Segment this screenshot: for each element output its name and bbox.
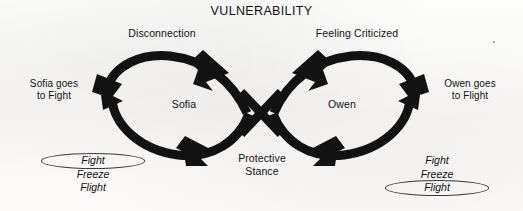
label-feeling-criticized: Feeling Criticized [292,27,422,40]
label-protective-stance: Protective Stance [212,152,312,178]
response-label: Fight [81,154,104,166]
responses-list-left: Fight Freeze Flight [56,154,130,195]
response-label: Fight [425,154,448,166]
page-title: VULNERABILITY [0,4,523,19]
response-label: Flight [80,181,106,193]
response-label: Freeze [421,168,454,180]
paper-speck [493,41,495,43]
label-owen: Owen [298,98,386,111]
label-disconnection: Disconnection [104,27,220,40]
label-sofia: Sofia [140,98,228,111]
label-sofia-goes-to-fight: Sofia goes to Fight [8,78,100,102]
label-owen-goes-to-flight: Owen goes to Flight [424,78,516,102]
response-item-left-freeze: Freeze [56,168,130,182]
response-item-right-freeze: Freeze [400,168,474,182]
responses-list-right: Fight Freeze Flight [400,154,474,195]
response-label: Flight [424,181,450,193]
response-item-right-flight: Flight [400,181,474,195]
response-label: Freeze [77,168,110,180]
response-item-right-fight: Fight [400,154,474,168]
diagram-canvas: VULNERABILITY Disconnection Feeling Crit… [0,0,523,211]
response-item-left-flight: Flight [56,181,130,195]
response-item-left-fight: Fight [56,154,130,168]
